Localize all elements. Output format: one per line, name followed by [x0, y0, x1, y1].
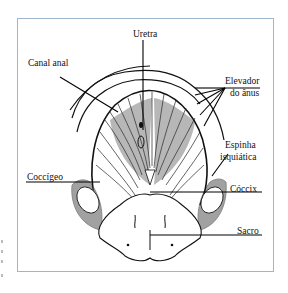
label-coccix: Cóccix: [230, 184, 257, 194]
label-coccigeo: Coccígeo: [27, 172, 63, 182]
label-elevador-line1: Elevador: [225, 76, 259, 86]
label-espinha-line2: isquiática: [220, 152, 256, 162]
label-espinha-line1: Espinha: [225, 140, 256, 150]
page-edge-marks: [1, 240, 4, 285]
label-canal-anal: Canal anal: [28, 58, 68, 68]
label-uretra: Uretra: [133, 29, 157, 39]
label-sacro: Sacro: [237, 226, 259, 236]
label-elevador-line2: do ânus: [230, 88, 259, 98]
